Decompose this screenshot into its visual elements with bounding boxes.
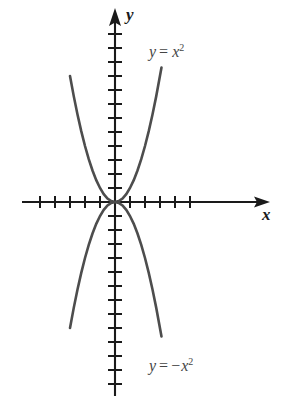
equation-label-lower: y=−x2 [149,358,193,374]
equation-lower-exponent: 2 [188,356,193,367]
coordinate-plane-svg [0,0,283,400]
equation-upper-operator: = [156,43,171,60]
x-axis-label: x [262,206,271,223]
parabola-figure: y x y=x2 y=−x2 [0,0,283,400]
y-axis-label: y [126,6,134,23]
equation-lower-minus: − [171,357,181,374]
equation-label-upper: y=x2 [149,44,184,60]
equation-upper-exponent: 2 [179,42,184,53]
equation-lower-operator: = [156,357,171,374]
